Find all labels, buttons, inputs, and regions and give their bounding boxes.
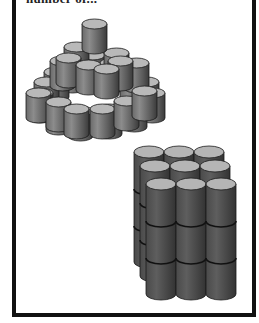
cylinder-figures <box>0 0 259 323</box>
pyramid-stack <box>26 19 165 141</box>
cube-stack <box>134 146 236 300</box>
